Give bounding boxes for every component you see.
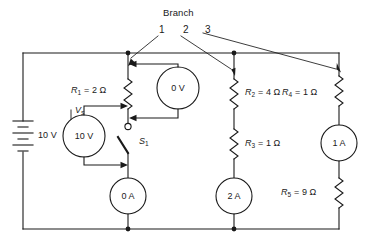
- voltmeter-source-lead-top: [84, 106, 120, 115]
- ammeter-branch2-reading: 2 A: [216, 192, 252, 201]
- voltmeter-r1-lead-top: [136, 64, 178, 67]
- voltmeter-source-reading: 10 V: [64, 132, 104, 141]
- circuit-schematic-svg: [0, 0, 372, 248]
- voltmeter-source-arrow-bottom: [121, 162, 129, 169]
- branch-number-2: 2: [183, 24, 189, 35]
- resistor-r1-label: R1 = 2 Ω: [71, 86, 106, 95]
- resistor-r2-zigzag: [230, 79, 238, 109]
- voltmeter-r1-lead-bottom: [136, 109, 178, 118]
- branch-title: Branch: [163, 8, 194, 18]
- source-symbol-label: Vs: [75, 106, 84, 115]
- switch-blade-s1: [118, 137, 128, 153]
- junction-dot-top-branch2: [232, 51, 237, 56]
- resistor-r1-zigzag: [124, 79, 132, 109]
- resistor-r4-zigzag: [335, 76, 343, 106]
- ammeter-branch3-reading: 1 A: [321, 139, 357, 148]
- switch-s1-label: S1: [139, 137, 149, 146]
- junction-dot-bottom-branch1: [126, 227, 131, 232]
- junction-dot-bottom-branch2: [232, 227, 237, 232]
- resistor-r4-label: R4 = 1 Ω: [282, 88, 317, 97]
- resistor-r5-zigzag: [335, 178, 343, 208]
- voltmeter-source-arrow-top: [121, 103, 129, 110]
- battery-symbol: [13, 121, 33, 151]
- resistor-r2-label: R2 = 4 Ω: [245, 88, 280, 97]
- voltmeter-r1-arrow-bottom: [129, 115, 137, 122]
- branch-number-1: 1: [159, 24, 165, 35]
- branch1-leader-line: [131, 36, 158, 58]
- voltmeter-r1-reading: 0 V: [158, 84, 198, 93]
- circuit-diagram: Branch 1 2 3 Vs 10 V R1 = 2 Ω R2 = 4 Ω R…: [0, 0, 372, 248]
- source-value-label: 10 V: [38, 131, 57, 140]
- resistor-r3-label: R3 = 1 Ω: [245, 139, 280, 148]
- junction-dot-top-branch1: [126, 51, 131, 56]
- ammeter-branch1-reading: 0 A: [110, 192, 146, 201]
- resistor-r5-label: R5 = 9 Ω: [281, 188, 316, 197]
- branch-number-3: 3: [205, 24, 211, 35]
- branch2-leader-arrow: [231, 68, 235, 76]
- resistor-r3-zigzag: [230, 129, 238, 159]
- switch-terminal-circle: [125, 123, 131, 129]
- voltmeter-source-lead-bottom: [84, 157, 120, 165]
